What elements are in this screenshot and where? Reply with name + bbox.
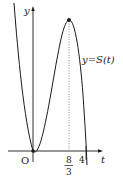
curve-s-of-t bbox=[14, 3, 87, 165]
origin-dot bbox=[31, 149, 35, 153]
tick-label-denominator: 3 bbox=[66, 167, 72, 177]
y-axis-arrow-icon bbox=[31, 6, 34, 11]
origin-label: O bbox=[21, 155, 29, 166]
graph-diagram: y t O 8 3 4 y=S(t) bbox=[0, 0, 123, 180]
max-point-dot bbox=[67, 18, 71, 22]
y-axis-label: y bbox=[23, 5, 30, 16]
tick-label-numerator: 8 bbox=[66, 155, 72, 165]
tick-label-four: 4 bbox=[79, 155, 85, 165]
t-axis-label: t bbox=[101, 154, 106, 165]
t-axis-arrow-icon bbox=[98, 149, 103, 152]
curve-label: y=S(t) bbox=[81, 54, 115, 65]
